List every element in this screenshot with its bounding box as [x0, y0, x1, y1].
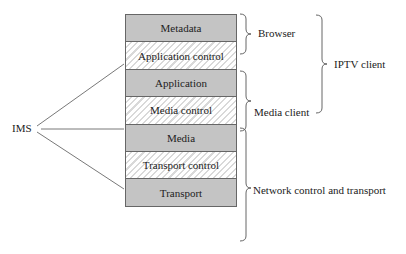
- connector-lines: [0, 0, 406, 254]
- media-client-bracket-icon: [240, 71, 251, 131]
- iptv-client-bracket-icon: [316, 15, 327, 113]
- ims-label: IMS: [12, 122, 32, 134]
- ims-connectors: [37, 64, 124, 189]
- network-bracket-icon: [240, 128, 251, 241]
- network-label: Network control and transport: [253, 184, 386, 196]
- browser-label: Browser: [258, 27, 295, 39]
- browser-bracket-icon: [240, 14, 251, 54]
- media-client-label: Media client: [254, 106, 309, 118]
- iptv-client-label: IPTV client: [334, 58, 385, 70]
